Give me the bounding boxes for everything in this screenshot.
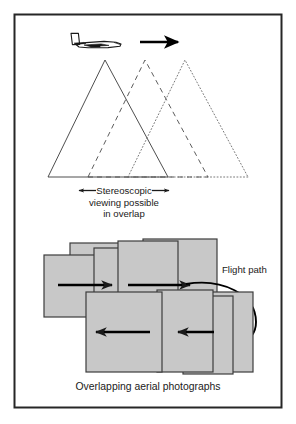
diagram-canvas: Stereoscopic viewing possible in overlap xyxy=(0,0,296,424)
flight-path-label: Flight path xyxy=(222,264,267,275)
stereoscopic-label-line1: Stereoscopic xyxy=(96,185,152,196)
aerial-photography-diagram: Stereoscopic viewing possible in overlap xyxy=(0,0,296,424)
bottom-caption: Overlapping aerial photographs xyxy=(76,381,221,392)
stereoscopic-label-line3: in overlap xyxy=(103,208,145,219)
stereoscopic-label-line2: viewing possible xyxy=(89,197,159,208)
